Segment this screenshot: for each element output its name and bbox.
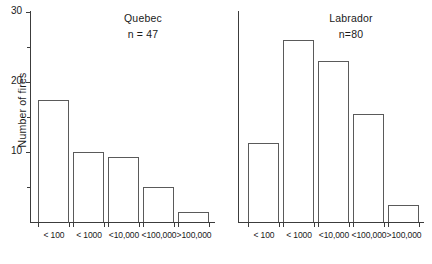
x-tick-l-8 <box>388 222 389 227</box>
x-tick-q-3 <box>104 222 105 227</box>
bar-quebec-lt10000 <box>108 157 139 222</box>
x-tick-l-4 <box>318 222 319 227</box>
panel-title-quebec-n: n = 47 <box>88 28 198 40</box>
bar-quebec-gt100000 <box>178 212 209 223</box>
bar-labrador-gt100000 <box>388 205 419 223</box>
panel-title-quebec-name: Quebec <box>124 12 162 24</box>
panel-quebec: Quebec n = 47 30 20 10 <box>30 0 220 264</box>
y-tick-20: 20 <box>26 82 31 83</box>
panel-title-labrador: Labrador n=80 <box>296 12 406 40</box>
x-tick-l-7 <box>384 222 385 227</box>
x-tick-l-9 <box>419 222 420 227</box>
x-label-labrador-gt100000: >100,000 <box>379 230 429 240</box>
bar-labrador-lt100000 <box>353 114 384 223</box>
y-axis-line-labrador <box>238 11 239 223</box>
x-tick-l-5 <box>349 222 350 227</box>
panel-labrador: Labrador n=80 < 100 < 1000 <10,000 <100,… <box>238 0 428 264</box>
bar-quebec-lt100000 <box>143 187 174 222</box>
x-tick-l-1 <box>279 222 280 227</box>
y-tick-10: 10 <box>26 152 31 153</box>
bar-quebec-lt100 <box>38 100 69 223</box>
x-tick-q-9 <box>209 222 210 227</box>
y-tick-label-10: 10 <box>11 145 22 156</box>
x-tick-q-5 <box>139 222 140 227</box>
figure-histogram-fires: Number of fires Quebec n = 47 30 20 10 <box>0 0 432 264</box>
bar-labrador-lt1000 <box>283 40 314 222</box>
y-tick-label-20: 20 <box>11 75 22 86</box>
panel-title-labrador-name: Labrador <box>329 12 373 24</box>
y-tick-5 <box>27 187 31 188</box>
x-tick-q-7 <box>174 222 175 227</box>
x-tick-q-4 <box>108 222 109 227</box>
y-tick-15 <box>27 117 31 118</box>
panel-title-quebec: Quebec n = 47 <box>88 12 198 40</box>
x-tick-q-2 <box>73 222 74 227</box>
y-tick-30: 30 <box>26 12 31 13</box>
bar-labrador-lt10000 <box>318 61 349 222</box>
bar-quebec-lt1000 <box>73 152 104 222</box>
x-label-quebec-gt100000: >100,000 <box>169 230 219 240</box>
x-tick-l-0 <box>248 222 249 227</box>
x-tick-l-2 <box>283 222 284 227</box>
panel-title-labrador-n: n=80 <box>296 28 406 40</box>
x-tick-l-3 <box>314 222 315 227</box>
x-tick-q-8 <box>178 222 179 227</box>
x-tick-q-1 <box>69 222 70 227</box>
x-tick-l-6 <box>353 222 354 227</box>
y-tick-label-30: 30 <box>11 5 22 16</box>
y-tick-25 <box>27 47 31 48</box>
x-axis-line-labrador <box>238 222 424 223</box>
x-tick-q-6 <box>143 222 144 227</box>
x-tick-q-0 <box>38 222 39 227</box>
bar-labrador-lt100 <box>248 143 279 222</box>
